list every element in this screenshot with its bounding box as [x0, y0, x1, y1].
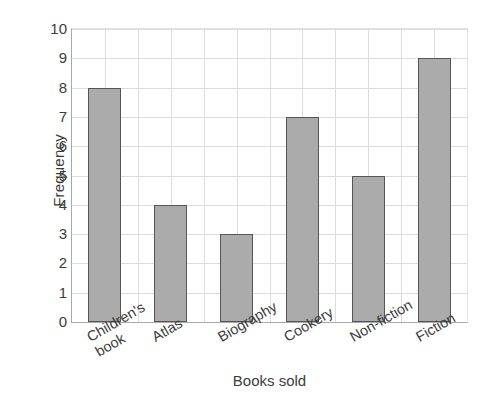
bar: [154, 205, 187, 322]
gridline-vertical: [335, 29, 336, 322]
bar-chart: Frequency 012345678910 Children's bookAt…: [0, 0, 490, 400]
y-axis-tick-label: 2: [27, 255, 67, 270]
y-axis-tick-labels: 012345678910: [23, 28, 67, 323]
gridline-vertical: [270, 29, 271, 322]
y-axis-tick-label: 6: [27, 138, 67, 153]
y-axis-tick-label: 4: [27, 196, 67, 211]
plot-area: [71, 28, 468, 323]
y-axis-tick-label: 5: [27, 167, 67, 182]
x-axis-title: Books sold: [71, 372, 468, 389]
x-axis-tick-labels: Children's bookAtlasBiographyCookeryNon-…: [71, 325, 468, 375]
y-axis-tick-label: 1: [27, 284, 67, 299]
bar: [286, 117, 319, 322]
bar: [352, 176, 385, 323]
gridline-vertical: [401, 29, 402, 322]
bar: [418, 58, 451, 322]
y-axis-tick-label: 3: [27, 226, 67, 241]
y-axis-tick-label: 9: [27, 50, 67, 65]
bar: [88, 88, 121, 322]
y-axis-tick-label: 8: [27, 79, 67, 94]
y-axis-tick-label: 7: [27, 108, 67, 123]
gridline-vertical: [204, 29, 205, 322]
gridline-vertical: [138, 29, 139, 322]
bar: [220, 234, 253, 322]
y-axis-tick-label: 10: [27, 21, 67, 36]
y-axis-tick-label: 0: [27, 314, 67, 329]
